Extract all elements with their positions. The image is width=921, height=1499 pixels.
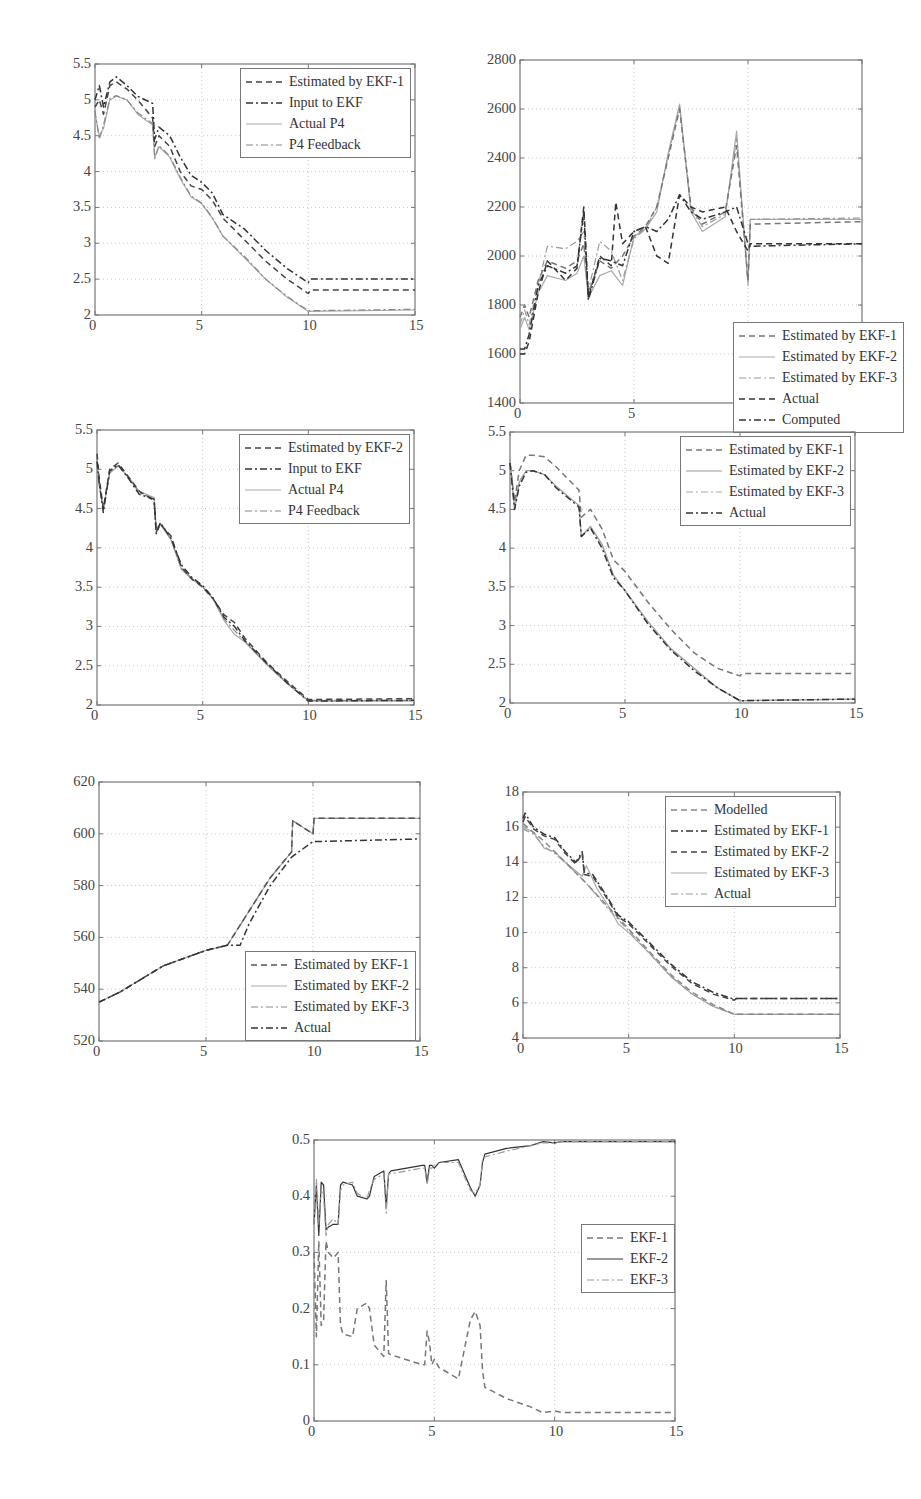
legend-line-swatch bbox=[245, 77, 283, 87]
legend-label: Estimated by EKF-2 bbox=[294, 978, 409, 994]
legend-label: Input to EKF bbox=[289, 95, 363, 111]
legend-label: Estimated by EKF-2 bbox=[729, 463, 844, 479]
y-tick-label: 0.3 bbox=[292, 1243, 310, 1260]
legend-label: Actual bbox=[782, 391, 819, 407]
legend-entry: EKF-1 bbox=[586, 1227, 668, 1248]
legend-entry: Actual bbox=[738, 388, 897, 409]
legend-entry: P4 Feedback bbox=[245, 134, 404, 155]
legend: ModelledEstimated by EKF-1Estimated by E… bbox=[665, 796, 836, 907]
legend-line-swatch bbox=[250, 981, 288, 991]
y-tick-label: 0.4 bbox=[292, 1187, 310, 1204]
legend-line-swatch bbox=[738, 352, 776, 362]
legend-label: Estimated by EKF-1 bbox=[782, 328, 897, 344]
x-tick-label: 15 bbox=[669, 1423, 684, 1440]
panel-b: 05101522.533.544.555.5Estimated by EKF-2… bbox=[97, 430, 414, 705]
x-tick-label: 5 bbox=[196, 317, 203, 334]
y-tick-label: 2200 bbox=[487, 198, 516, 215]
legend-entry: Actual bbox=[670, 883, 829, 904]
legend-label: Estimated by EKF-1 bbox=[289, 74, 404, 90]
legend-line-swatch bbox=[244, 443, 282, 453]
x-tick-label: 5 bbox=[619, 705, 626, 722]
y-tick-label: 4 bbox=[512, 1029, 519, 1046]
legend: Estimated by EKF-2Input to EKFActual P4P… bbox=[239, 434, 410, 524]
x-tick-label: 15 bbox=[849, 705, 864, 722]
legend: Estimated by EKF-1Estimated by EKF-2Esti… bbox=[733, 322, 904, 433]
legend-label: Actual bbox=[294, 1020, 331, 1036]
x-tick-label: 5 bbox=[197, 707, 204, 724]
legend-label: EKF-1 bbox=[630, 1230, 668, 1246]
legend-entry: Estimated by EKF-2 bbox=[670, 841, 829, 862]
panel-c: 051015520540560580600620Estimated by EKF… bbox=[99, 782, 420, 1041]
series-line bbox=[520, 109, 862, 317]
y-tick-label: 620 bbox=[73, 773, 95, 790]
legend-entry: Modelled bbox=[670, 799, 829, 820]
x-tick-label: 5 bbox=[200, 1043, 207, 1060]
y-tick-label: 3.5 bbox=[488, 578, 506, 595]
x-tick-label: 15 bbox=[414, 1043, 429, 1060]
legend-entry: Estimated by EKF-2 bbox=[250, 975, 409, 996]
legend-entry: Estimated by EKF-1 bbox=[245, 71, 404, 92]
legend-line-swatch bbox=[245, 119, 283, 129]
x-tick-label: 5 bbox=[623, 1040, 630, 1057]
legend-entry: Actual bbox=[250, 1017, 409, 1038]
legend-entry: Estimated by EKF-1 bbox=[670, 820, 829, 841]
legend-label: P4 Feedback bbox=[288, 503, 360, 519]
legend-entry: Input to EKF bbox=[245, 92, 404, 113]
panel-d: 05101514001600180020002200240026002800Es… bbox=[520, 60, 862, 403]
legend-entry: Actual P4 bbox=[245, 113, 404, 134]
y-tick-label: 3 bbox=[86, 617, 93, 634]
x-tick-label: 10 bbox=[302, 707, 317, 724]
legend-line-swatch bbox=[245, 98, 283, 108]
y-tick-label: 2.5 bbox=[73, 270, 91, 287]
y-tick-label: 10 bbox=[505, 924, 520, 941]
y-tick-label: 3.5 bbox=[73, 198, 91, 215]
legend-label: P4 Feedback bbox=[289, 137, 361, 153]
x-tick-label: 15 bbox=[834, 1040, 849, 1057]
legend-label: Estimated by EKF-3 bbox=[714, 865, 829, 881]
y-tick-label: 1400 bbox=[487, 394, 516, 411]
legend-entry: Computed bbox=[738, 409, 897, 430]
x-tick-label: 15 bbox=[408, 707, 423, 724]
legend-label: Actual bbox=[729, 505, 766, 521]
legend-label: Computed bbox=[782, 412, 840, 428]
legend-entry: EKF-3 bbox=[586, 1269, 668, 1290]
legend-label: Estimated by EKF-3 bbox=[294, 999, 409, 1015]
legend-entry: Estimated by EKF-3 bbox=[685, 481, 844, 502]
panel-g: 05101500.10.20.30.40.5EKF-1EKF-2EKF-3 bbox=[314, 1140, 675, 1421]
legend-line-swatch bbox=[245, 140, 283, 150]
legend-entry: Estimated by EKF-1 bbox=[738, 325, 897, 346]
y-tick-label: 12 bbox=[505, 888, 520, 905]
y-tick-label: 3 bbox=[84, 234, 91, 251]
x-tick-label: 10 bbox=[728, 1040, 743, 1057]
y-tick-label: 5.5 bbox=[488, 423, 506, 440]
y-tick-label: 1600 bbox=[487, 345, 516, 362]
legend-line-swatch bbox=[685, 487, 723, 497]
y-tick-label: 2600 bbox=[487, 100, 516, 117]
legend-line-swatch bbox=[738, 373, 776, 383]
legend-line-swatch bbox=[586, 1275, 624, 1285]
series-line bbox=[520, 104, 862, 329]
legend-label: Estimated by EKF-2 bbox=[714, 844, 829, 860]
legend-line-swatch bbox=[670, 847, 708, 857]
legend-label: Input to EKF bbox=[288, 461, 362, 477]
y-tick-label: 5 bbox=[84, 91, 91, 108]
legend-label: Estimated by EKF-2 bbox=[288, 440, 403, 456]
y-tick-label: 4 bbox=[86, 539, 93, 556]
y-tick-label: 580 bbox=[73, 877, 95, 894]
legend-line-swatch bbox=[685, 445, 723, 455]
y-tick-label: 540 bbox=[73, 980, 95, 997]
legend-line-swatch bbox=[738, 415, 776, 425]
legend-line-swatch bbox=[738, 331, 776, 341]
legend-label: Estimated by EKF-3 bbox=[782, 370, 897, 386]
y-tick-label: 3.5 bbox=[75, 578, 93, 595]
y-tick-label: 2 bbox=[499, 694, 506, 711]
legend: EKF-1EKF-2EKF-3 bbox=[581, 1224, 675, 1293]
y-tick-label: 600 bbox=[73, 825, 95, 842]
legend-entry: EKF-2 bbox=[586, 1248, 668, 1269]
y-tick-label: 5.5 bbox=[75, 421, 93, 438]
x-tick-label: 10 bbox=[307, 1043, 322, 1060]
panel-e: 05101522.533.544.555.5Estimated by EKF-1… bbox=[510, 432, 855, 703]
legend: Estimated by EKF-1Input to EKFActual P4P… bbox=[240, 68, 411, 158]
y-tick-label: 4.5 bbox=[488, 500, 506, 517]
y-tick-label: 0.1 bbox=[292, 1356, 310, 1373]
